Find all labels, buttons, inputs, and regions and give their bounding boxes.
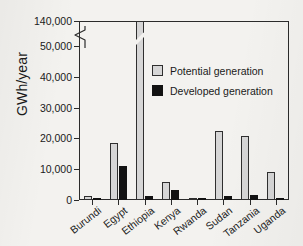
bar-egypt-potential [110, 143, 118, 200]
x-tick-mark [171, 200, 172, 205]
legend-swatch-developed-icon [152, 85, 163, 96]
y-tick-label: 40,000 [0, 72, 72, 82]
bar-kenya-developed [171, 190, 179, 200]
x-tick-mark [276, 200, 277, 205]
x-tick-mark [92, 200, 93, 205]
legend-label-potential: Potential generation [170, 65, 263, 77]
legend-label-developed: Developed generation [170, 85, 273, 97]
bar-uganda-potential [267, 172, 275, 200]
legend: Potential generation Developed generatio… [152, 63, 273, 103]
x-tick-mark [223, 200, 224, 205]
y-tick-label: 0 [0, 195, 72, 205]
x-tick-mark [197, 200, 198, 205]
x-axis: BurundiEgyptEthiopiaKenyaRwandaSudanTanz… [79, 200, 289, 246]
bar-tanzania-potential [241, 136, 249, 200]
y-tick-label: 50,000 [0, 41, 72, 51]
bar-egypt-developed [119, 166, 127, 200]
bar-kenya-potential [162, 182, 170, 200]
bar-sudan-potential [215, 131, 223, 200]
x-tick-mark [250, 200, 251, 205]
y-tick-label: 10,000 [0, 164, 72, 174]
y-tick-label: 20,000 [0, 133, 72, 143]
y-tick-label: 30,000 [0, 103, 72, 113]
x-tick-mark [118, 200, 119, 205]
y-tick-label: 140,000 [0, 16, 72, 26]
bar-ethiopia-potential [136, 21, 144, 200]
hydropower-generation-bar-chart: GWh/year 010,00020,00030,00040,00050,000… [0, 0, 303, 246]
x-tick-label-burundi: Burundi [68, 204, 104, 236]
legend-item-potential: Potential generation [152, 63, 273, 78]
bars-layer [79, 21, 289, 200]
legend-item-developed: Developed generation [152, 83, 273, 98]
x-tick-mark [145, 200, 146, 205]
legend-swatch-potential-icon [152, 65, 163, 76]
